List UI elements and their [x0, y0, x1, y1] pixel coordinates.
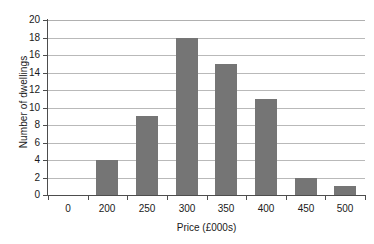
- y-tick-label: 12: [6, 85, 40, 95]
- y-tick-label: 14: [6, 68, 40, 78]
- bar-slot: [88, 20, 128, 195]
- y-tick-label: 20: [6, 15, 40, 25]
- bar-series: [48, 20, 365, 195]
- y-tick-mark: [43, 20, 48, 21]
- x-tick-mark: [286, 196, 287, 200]
- y-tick-mark: [43, 125, 48, 126]
- bar-chart-figure: Number of dwellings 20181614121086420 02…: [0, 0, 374, 244]
- x-tick-mark: [246, 196, 247, 200]
- y-tick-mark: [43, 143, 48, 144]
- bar: [136, 116, 158, 195]
- plot-area: [48, 20, 365, 195]
- y-tick-label: 4: [6, 155, 40, 165]
- bar: [255, 99, 277, 195]
- bar-slot: [167, 20, 207, 195]
- y-tick-label: 8: [6, 120, 40, 130]
- x-tick-mark: [167, 196, 168, 200]
- x-tick-mark: [365, 196, 366, 200]
- bar-slot: [325, 20, 365, 195]
- x-tick-label: 500: [322, 203, 368, 215]
- x-tick-mark: [88, 196, 89, 200]
- x-tick-mark: [207, 196, 208, 200]
- x-tick-mark: [325, 196, 326, 200]
- y-tick-label: 10: [6, 103, 40, 113]
- y-tick-mark: [43, 160, 48, 161]
- bar-slot: [286, 20, 326, 195]
- y-tick-label: 0: [6, 190, 40, 200]
- y-tick-label: 16: [6, 50, 40, 60]
- bar-slot: [48, 20, 88, 195]
- y-tick-mark: [43, 90, 48, 91]
- y-tick-mark: [43, 55, 48, 56]
- bar: [176, 38, 198, 196]
- y-tick-label: 6: [6, 138, 40, 148]
- bar-slot: [207, 20, 247, 195]
- bar: [215, 64, 237, 195]
- x-tick-mark: [127, 196, 128, 200]
- bar: [295, 178, 317, 196]
- bar: [334, 186, 356, 195]
- y-tick-mark: [43, 108, 48, 109]
- y-tick-label: 2: [6, 173, 40, 183]
- x-tick-mark: [48, 196, 49, 200]
- y-tick-mark: [43, 38, 48, 39]
- y-tick-label: 18: [6, 33, 40, 43]
- bar-slot: [246, 20, 286, 195]
- x-axis-title: Price (£000s): [48, 222, 365, 234]
- bar: [96, 160, 118, 195]
- y-tick-mark: [43, 73, 48, 74]
- bar-slot: [127, 20, 167, 195]
- y-tick-mark: [43, 178, 48, 179]
